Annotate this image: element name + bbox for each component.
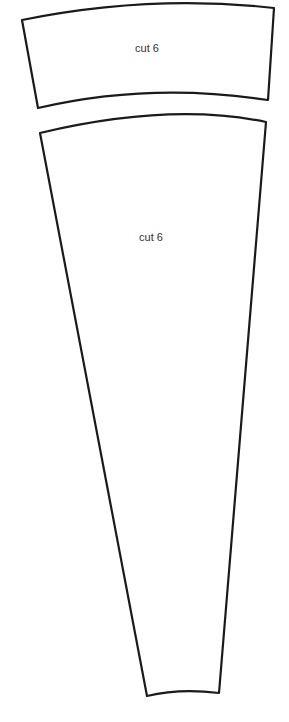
gore-cut-label: cut 6 [139,231,163,243]
band-piece-outline [22,3,274,108]
pattern-sheet [0,0,289,722]
band-cut-label: cut 6 [135,42,159,54]
gore-piece-outline [40,114,266,696]
